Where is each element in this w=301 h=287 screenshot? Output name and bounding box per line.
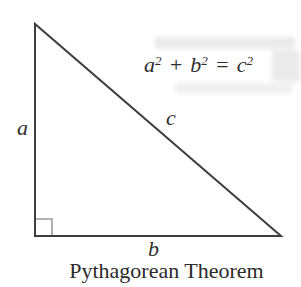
side-a-label: a xyxy=(17,117,28,139)
bleed-through-artifact xyxy=(155,37,295,49)
side-b-label: b xyxy=(148,238,159,260)
bleed-through-artifact xyxy=(175,83,293,93)
pythagorean-formula: a2+b2=c2 xyxy=(144,54,253,76)
formula-a-exponent: 2 xyxy=(155,53,162,68)
hypotenuse-c-label: c xyxy=(166,107,176,129)
formula-a-base: a xyxy=(144,52,155,77)
pythagorean-theorem-figure: a c b a2+b2=c2 Pythagorean Theorem xyxy=(0,0,301,287)
formula-b-exponent: 2 xyxy=(201,53,208,68)
plus-sign: + xyxy=(169,52,184,77)
figure-caption: Pythagorean Theorem xyxy=(0,259,301,283)
formula-c-exponent: 2 xyxy=(246,53,253,68)
equals-sign: = xyxy=(215,52,230,77)
formula-b-base: b xyxy=(190,52,201,77)
bleed-through-artifact xyxy=(272,50,300,82)
right-angle-marker xyxy=(35,219,52,236)
